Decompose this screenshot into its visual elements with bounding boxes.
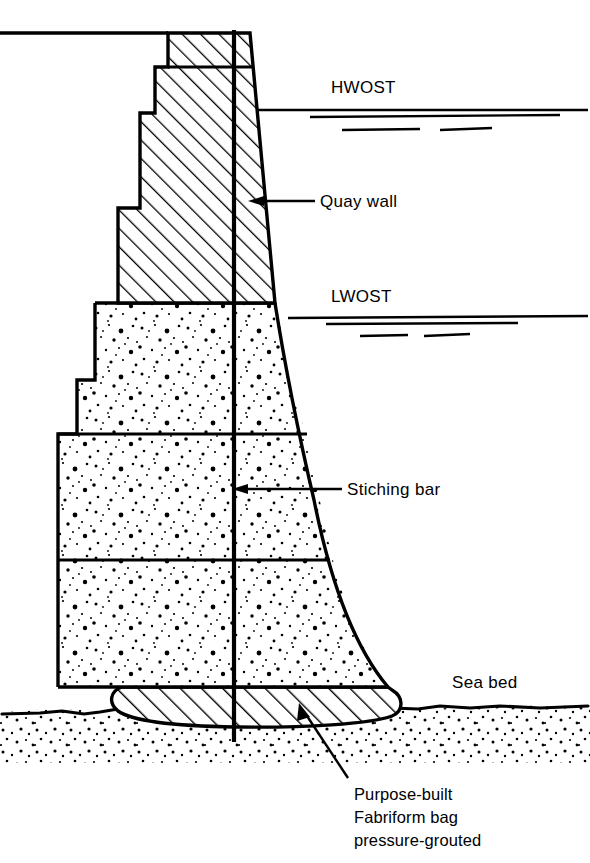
fabriform-label-line1: Purpose-built [354,785,453,803]
diagram-canvas: HWOST LWOST Quay wall Stiching bar Sea b… [0,0,590,863]
quay-wall-label: Quay wall [320,192,397,211]
fabriform-label-line2: Fabriform bag [354,808,458,826]
hwost-label: HWOST [331,78,396,97]
stiching-bar-label: Stiching bar [347,480,440,499]
lwost-label: LWOST [331,287,392,306]
hwost-wave-line-2 [342,129,420,130]
fabriform-label-line3: pressure-grouted [354,831,481,849]
lwost-wave-line-2 [360,335,408,336]
quay-wall-section-figure: HWOST LWOST Quay wall Stiching bar Sea b… [0,0,590,863]
lwost-wave-line-1 [326,323,518,324]
sea-bed-label: Sea bed [452,673,517,692]
